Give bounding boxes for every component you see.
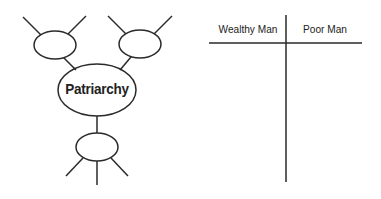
spoke-line xyxy=(23,17,41,35)
spoke-line xyxy=(111,158,128,176)
spoke-line xyxy=(68,16,86,34)
central-bubble-label: Patriarchy xyxy=(62,80,132,97)
spoke-line xyxy=(154,16,172,34)
connector-line xyxy=(120,57,131,70)
t-chart-column-header-left: Wealthy Man xyxy=(216,23,279,35)
spoke-line xyxy=(108,16,126,34)
satellite-bubble-top-right xyxy=(119,30,161,58)
t-chart-column-header-right: Poor Man xyxy=(294,23,356,35)
satellite-bubble-top-left xyxy=(34,31,76,59)
spoke-line xyxy=(66,158,83,176)
concept-web xyxy=(23,16,172,185)
satellite-bubble-bottom xyxy=(76,133,118,161)
t-chart xyxy=(209,15,362,182)
